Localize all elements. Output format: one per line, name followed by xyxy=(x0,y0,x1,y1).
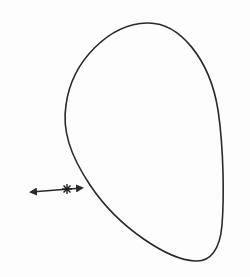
diagram-canvas xyxy=(0,0,250,277)
asterisk-icon xyxy=(62,184,72,194)
closed-curve xyxy=(65,23,223,261)
double-arrow xyxy=(31,188,82,192)
